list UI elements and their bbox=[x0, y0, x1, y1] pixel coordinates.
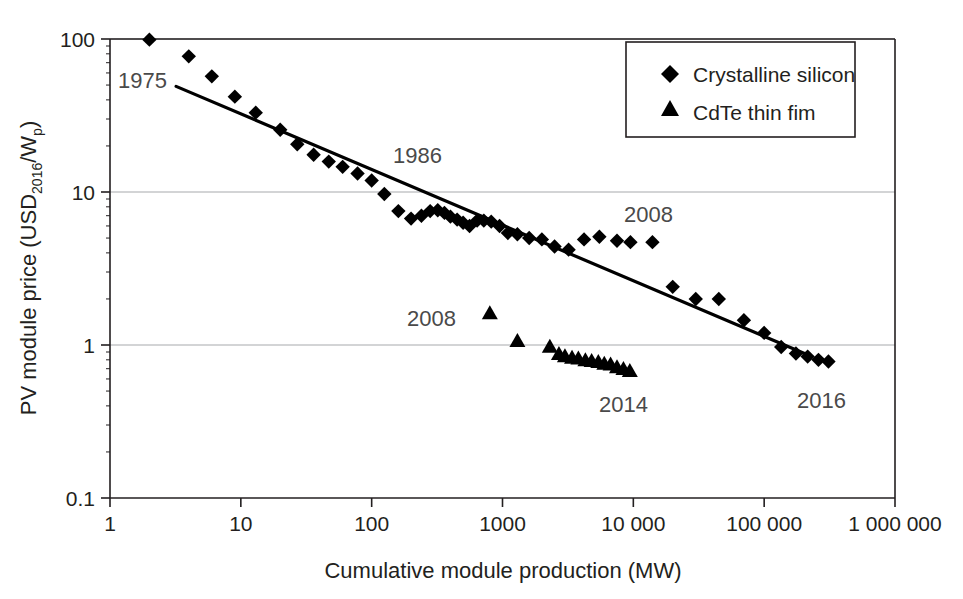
pv-module-price-experience-curve-chart: 110100100010 000100 0001 000 000 0.11101… bbox=[0, 0, 963, 599]
y-axis-title-mid: /W bbox=[16, 136, 41, 163]
y-axis-title-sub-p: p bbox=[29, 128, 45, 136]
y-axis-title-suffix: ) bbox=[16, 121, 41, 128]
x-tick-label[interactable]: 100 bbox=[354, 512, 389, 535]
y-tick-label[interactable]: 10 bbox=[72, 181, 95, 204]
legend-label-cdte-thin-film: CdTe thin fim bbox=[693, 101, 816, 124]
y-tick-label[interactable]: 0.1 bbox=[66, 487, 95, 510]
annot-2014[interactable]: 2014 bbox=[599, 392, 648, 417]
annot-2008-cdte[interactable]: 2008 bbox=[407, 306, 456, 331]
y-tick-label[interactable]: 100 bbox=[60, 28, 95, 51]
y-axis-title-sub-year: 2016 bbox=[29, 163, 45, 194]
annot-2008-silicon[interactable]: 2008 bbox=[624, 202, 673, 227]
x-tick-label[interactable]: 10 000 bbox=[601, 512, 665, 535]
x-tick-label[interactable]: 1 000 000 bbox=[848, 512, 941, 535]
x-tick-label[interactable]: 1 bbox=[104, 512, 116, 535]
legend-label-crystalline-silicon: Crystalline silicon bbox=[693, 63, 855, 86]
annot-1986[interactable]: 1986 bbox=[393, 143, 442, 168]
x-tick-label[interactable]: 100 000 bbox=[726, 512, 802, 535]
annot-2016[interactable]: 2016 bbox=[797, 388, 846, 413]
x-tick-label[interactable]: 1000 bbox=[479, 512, 526, 535]
y-tick-label[interactable]: 1 bbox=[83, 334, 95, 357]
figure-container: 110100100010 000100 0001 000 000 0.11101… bbox=[0, 0, 963, 599]
annot-1975[interactable]: 1975 bbox=[118, 68, 167, 93]
x-axis-title: Cumulative module production (MW) bbox=[324, 558, 681, 583]
legend[interactable]: Crystalline silicon CdTe thin fim bbox=[626, 42, 855, 137]
x-tick-label[interactable]: 10 bbox=[229, 512, 252, 535]
y-axis-title-prefix: PV module price (USD bbox=[16, 194, 41, 415]
